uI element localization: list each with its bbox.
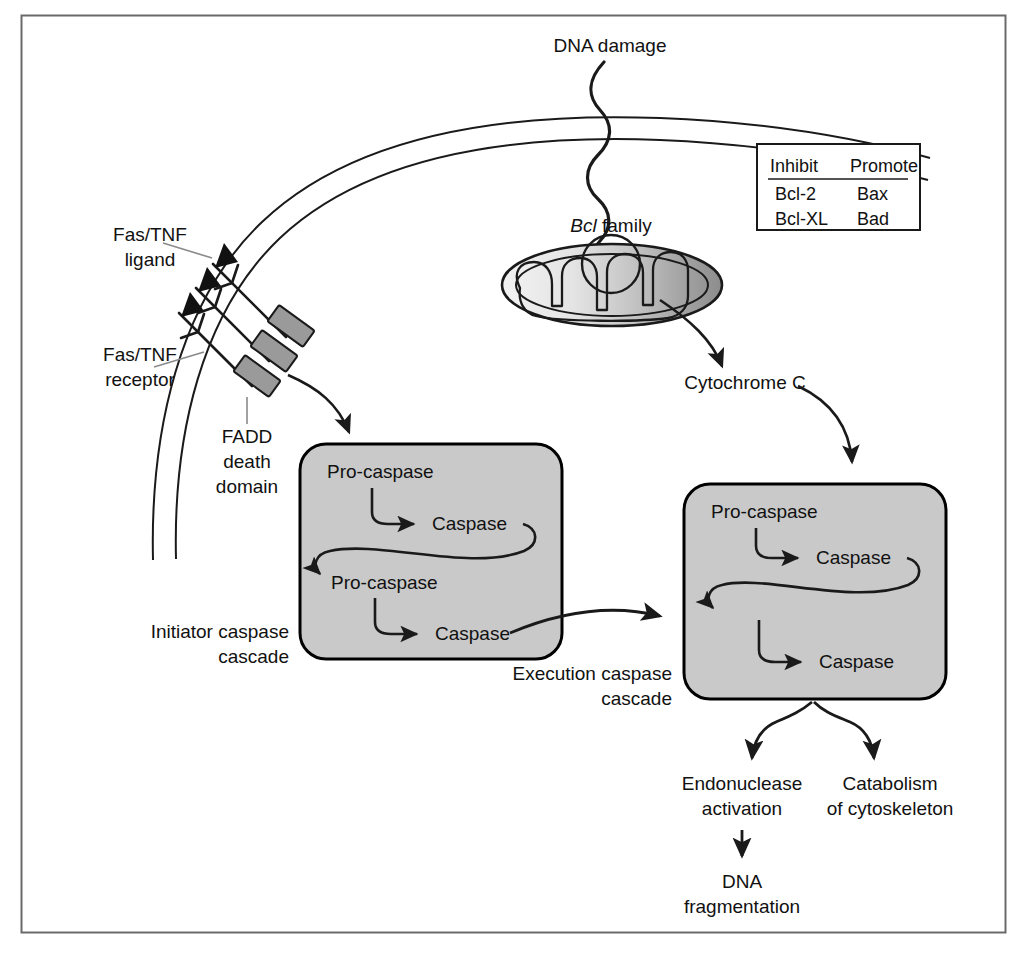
catabolism-label-line1: Catabolism xyxy=(842,773,937,794)
execution-cascade-label-line2: cascade xyxy=(601,688,672,709)
fadd-label-line3: domain xyxy=(216,476,278,497)
initiator-node-caspase-1: Caspase xyxy=(432,513,507,534)
bcl-table-cell-r0c0: Bcl-2 xyxy=(775,184,816,204)
execution-cascade-label-line1: Execution caspase xyxy=(513,663,673,684)
bcl-family-italic: Bcl xyxy=(570,215,597,236)
endonuclease-label-line1: Endonuclease xyxy=(682,773,802,794)
initiator-node-pro-caspase-1: Pro-caspase xyxy=(327,461,434,482)
initiator-cascade-label-line2: cascade xyxy=(218,646,289,667)
execution-node-pro-caspase-1: Pro-caspase xyxy=(711,501,818,522)
endonuclease-label-line2: activation xyxy=(702,798,782,819)
bcl-table-cell-r1c1: Bad xyxy=(857,209,889,229)
bcl-table-cell-r0c1: Bax xyxy=(857,184,888,204)
apoptosis-pathway-diagram: DNA damage Bcl family Inhibit Promote Bc… xyxy=(0,0,1026,954)
initiator-cascade-label-line1: Initiator caspase xyxy=(151,621,289,642)
bcl-regulator-table: Inhibit Promote Bcl-2 Bax Bcl-XL Bad xyxy=(757,144,920,230)
mitochondrion xyxy=(502,244,722,326)
fas-tnf-ligand-label-line1: Fas/TNF xyxy=(113,224,187,245)
bcl-table-cell-r1c0: Bcl-XL xyxy=(775,209,828,229)
execution-caspase-cascade-box: Pro-caspase Caspase Caspase xyxy=(684,484,946,699)
fadd-label-line2: death xyxy=(223,451,271,472)
initiator-node-caspase-2: Caspase xyxy=(435,623,510,644)
dna-damage-label: DNA damage xyxy=(553,35,666,56)
fas-tnf-receptor-label-line1: Fas/TNF xyxy=(103,344,177,365)
fas-tnf-receptor-label-line2: receptor xyxy=(105,369,175,390)
fas-tnf-ligand-label-line2: ligand xyxy=(125,249,176,270)
fadd-label-line1: FADD xyxy=(222,426,273,447)
dna-fragmentation-label-line2: fragmentation xyxy=(684,896,800,917)
initiator-node-pro-caspase-2: Pro-caspase xyxy=(331,572,438,593)
bcl-table-header-inhibit: Inhibit xyxy=(770,156,818,176)
cytochrome-c-label: Cytochrome C xyxy=(684,372,805,393)
execution-node-caspase-2: Caspase xyxy=(819,651,894,672)
catabolism-label-line2: of cytoskeleton xyxy=(827,798,954,819)
bcl-family-label: Bcl family xyxy=(570,215,652,236)
bcl-table-header-promote: Promote xyxy=(850,156,918,176)
dna-fragmentation-label-line1: DNA xyxy=(722,871,762,892)
bcl-family-rest: family xyxy=(597,215,652,236)
execution-node-caspase-1: Caspase xyxy=(816,547,891,568)
